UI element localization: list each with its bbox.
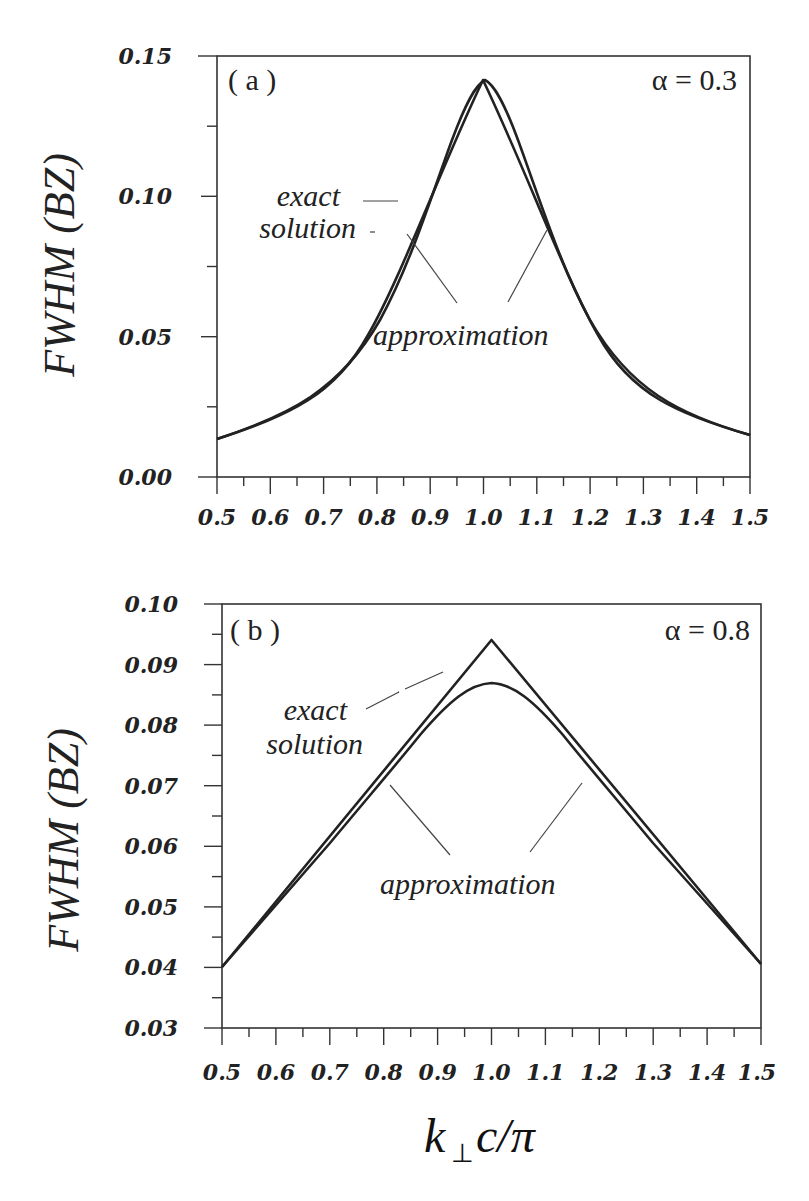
- svg-text:1.2: 1.2: [571, 504, 609, 530]
- panel-a-annot-approximation: approximation: [373, 318, 549, 351]
- svg-text:0.5: 0.5: [203, 1059, 241, 1085]
- svg-text:0.06: 0.06: [124, 833, 178, 859]
- panel-b-y-tick-labels: 0.10 0.09 0.08 0.07 0.06 0.05 0.04 0.03: [124, 591, 178, 1041]
- panel-b-approx-leader-right: [530, 783, 582, 852]
- svg-text:0.03: 0.03: [124, 1015, 178, 1041]
- panel-a-x-ticks: [217, 477, 750, 494]
- svg-text:0.15: 0.15: [118, 43, 172, 69]
- svg-text:0.07: 0.07: [124, 773, 178, 799]
- panel-a-y-tick-labels: 0.15 0.10 0.05 0.00: [118, 43, 172, 490]
- x-axis-label: k ⊥ c/π: [424, 1109, 537, 1168]
- panel-b: FWHM (BZ) 0.10 0.09 0.08 0.07 0.06 0: [39, 591, 776, 1085]
- panel-b-plot-frame: [222, 604, 761, 1028]
- svg-text:1.0: 1.0: [472, 1059, 511, 1085]
- svg-text:0.05: 0.05: [124, 894, 178, 920]
- svg-text:0.9: 0.9: [418, 1059, 456, 1085]
- svg-text:0.08: 0.08: [124, 712, 178, 738]
- svg-text:0.10: 0.10: [124, 591, 178, 617]
- svg-text:1.1: 1.1: [526, 1059, 564, 1085]
- svg-text:1.1: 1.1: [518, 504, 556, 530]
- panel-b-y-ticks: [204, 634, 222, 997]
- panel-b-x-ticks: [222, 1028, 761, 1045]
- svg-text:0.05: 0.05: [118, 324, 172, 350]
- svg-text:0.8: 0.8: [358, 504, 396, 530]
- svg-text:1.5: 1.5: [731, 504, 769, 530]
- panel-b-tag: ( b ): [230, 613, 280, 647]
- panel-a-annot-exact: exact: [277, 179, 341, 212]
- panel-a-y-axis-label: FWHM (BZ): [35, 153, 84, 378]
- x-axis-label-rest: c/π: [476, 1109, 537, 1162]
- svg-text:0.6: 0.6: [257, 1059, 295, 1085]
- svg-text:1.5: 1.5: [738, 1059, 776, 1085]
- panel-b-annot-approximation: approximation: [380, 867, 556, 900]
- panel-a-exact-solution-curve: [217, 80, 750, 439]
- panel-b-x-tick-labels: 0.5 0.6 0.7 0.8 0.9 1.0 1.1 1.2 1.3 1.4 …: [203, 1059, 776, 1085]
- figure: FWHM (BZ) 0.15 0.10 0.05 0.00: [0, 0, 809, 1201]
- panel-a-y-ticks: [201, 126, 217, 407]
- panel-b-exact-solution-curve: [222, 640, 761, 967]
- svg-text:0.7: 0.7: [311, 1059, 350, 1085]
- x-axis-label-perp: ⊥: [451, 1139, 474, 1168]
- svg-text:0.5: 0.5: [198, 504, 236, 530]
- svg-text:1.4: 1.4: [678, 504, 716, 530]
- svg-text:0.10: 0.10: [118, 183, 172, 209]
- panel-a-x-tick-labels: 0.5 0.6 0.7 0.8 0.9 1.0 1.1 1.2 1.3 1.4 …: [198, 504, 769, 530]
- panel-b-annot-exact: exact: [284, 693, 348, 726]
- svg-text:0.09: 0.09: [124, 652, 178, 678]
- panel-a: FWHM (BZ) 0.15 0.10 0.05 0.00: [35, 43, 769, 530]
- svg-text:1.4: 1.4: [688, 1059, 726, 1085]
- panel-a-alpha-label: α = 0.3: [652, 63, 737, 96]
- x-axis-label-k: k: [424, 1109, 447, 1162]
- svg-text:0.00: 0.00: [118, 464, 172, 490]
- panel-b-alpha-label: α = 0.8: [665, 613, 750, 646]
- svg-text:1.0: 1.0: [464, 504, 503, 530]
- panel-a-annot-solution: solution: [259, 211, 356, 244]
- svg-text:0.8: 0.8: [365, 1059, 403, 1085]
- panel-a-approx-leader-left: [407, 234, 457, 303]
- panel-b-y-axis-label: FWHM (BZ): [39, 728, 88, 953]
- panel-a-approximation-curve: [217, 80, 750, 439]
- svg-text:0.9: 0.9: [411, 504, 449, 530]
- panel-b-exact-leader: [405, 672, 443, 689]
- panel-b-approx-leader-left: [390, 785, 450, 855]
- panel-a-approx-leader-right: [508, 230, 547, 302]
- svg-text:1.3: 1.3: [624, 504, 662, 530]
- panel-a-plot-frame: [217, 56, 750, 477]
- svg-text:0.04: 0.04: [124, 954, 178, 980]
- panel-a-tag: ( a ): [228, 63, 276, 97]
- panel-b-exact-leader-1: [366, 692, 399, 709]
- panel-b-annot-solution: solution: [266, 727, 363, 760]
- svg-text:1.3: 1.3: [634, 1059, 672, 1085]
- svg-text:1.2: 1.2: [580, 1059, 618, 1085]
- svg-text:0.7: 0.7: [304, 504, 343, 530]
- svg-text:0.6: 0.6: [251, 504, 289, 530]
